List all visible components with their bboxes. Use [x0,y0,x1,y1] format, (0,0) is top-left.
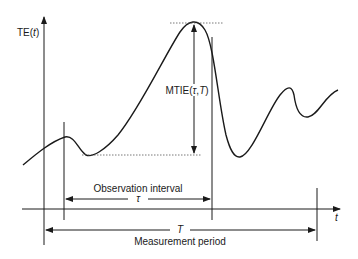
observation-interval-label: Observation interval [94,183,183,194]
y-axis-label: TE(t) [17,27,39,38]
T-symbol: T [177,224,184,235]
mtie-diagram: MTIE(τ,T) τ Observation interval T Measu… [0,0,358,259]
x-axis-label: t [335,212,339,223]
mtie-label: MTIE(τ,T) [165,85,208,96]
measurement-period-label: Measurement period [134,236,226,247]
